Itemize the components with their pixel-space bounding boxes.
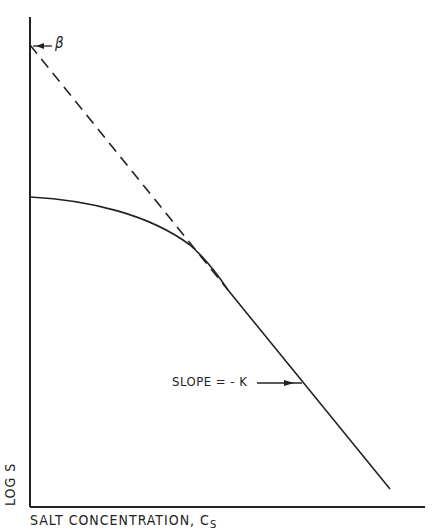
solubility-curve [30,197,390,489]
chart-canvas [0,0,438,532]
beta-arrowhead [36,43,44,49]
beta-label: β [55,34,64,52]
x-axis-label-subscript: S [210,518,217,531]
x-axis-label: SALT CONCENTRATION, CS [30,512,217,531]
slope-label: SLOPE = - K [172,374,247,389]
slope-arrowhead [284,380,294,386]
x-axis-label-text: SALT CONCENTRATION, C [30,512,210,528]
y-axis-label: LOG S [2,463,18,506]
